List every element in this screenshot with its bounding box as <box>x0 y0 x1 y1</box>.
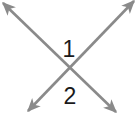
angle-label-2: 2 <box>59 85 81 108</box>
angle-label-1: 1 <box>58 38 80 61</box>
geometry-figure: 1 2 <box>0 0 135 124</box>
